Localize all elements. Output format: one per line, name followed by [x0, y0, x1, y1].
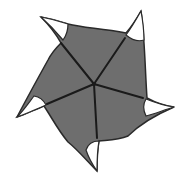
tip-left: [17, 96, 46, 117]
tip-top-right: [126, 11, 144, 41]
center-point: [92, 82, 96, 86]
diagram-canvas: [0, 0, 188, 188]
pinwheel-diagram: [0, 0, 188, 188]
tip-top-left: [41, 17, 68, 40]
